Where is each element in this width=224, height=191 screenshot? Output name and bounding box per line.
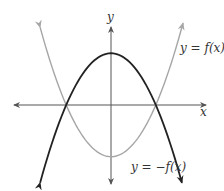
graph: y x y = f(x) y = −f(x) (0, 0, 224, 191)
x-axis-label: x (200, 105, 207, 119)
y-axis-label: y (106, 10, 114, 24)
f-curve-label: y = f(x) (179, 41, 224, 55)
neg-f-curve-label: y = −f(x) (130, 160, 186, 174)
curve-f (40, 23, 183, 157)
